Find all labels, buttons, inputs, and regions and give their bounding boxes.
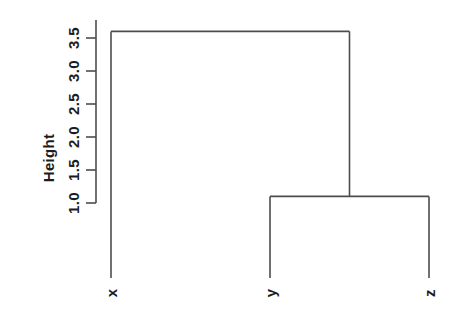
leaf-label-x: x [103,289,120,298]
y-tick-label: 2.0 [65,126,82,148]
y-tick-label: 1.5 [65,159,82,181]
y-tick-label: 2.5 [65,93,82,115]
dendrogram-figure: Height 1.01.52.02.53.03.5 xyz [0,0,457,315]
leaf-label-z: z [421,289,438,297]
y-tick-label: 3.5 [65,27,82,49]
y-tick-label: 3.0 [65,60,82,82]
y-axis-title: Height [40,134,57,182]
y-tick-label: 1.0 [65,192,82,214]
leaf-label-y: y [262,289,279,298]
